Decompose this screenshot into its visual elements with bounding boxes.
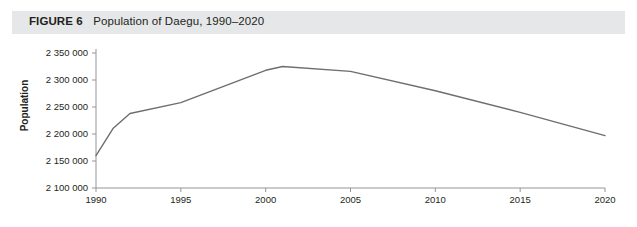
data-series-line <box>96 67 605 156</box>
x-axis-ticks <box>96 188 605 192</box>
chart-canvas <box>0 0 637 227</box>
y-axis-ticks <box>92 53 96 188</box>
axes-group <box>92 49 605 192</box>
figure-container: FIGURE 6 Population of Daegu, 1990–2020 … <box>0 0 637 227</box>
plot-area: Population 2 100 0002 150 0002 200 0002 … <box>0 0 637 227</box>
